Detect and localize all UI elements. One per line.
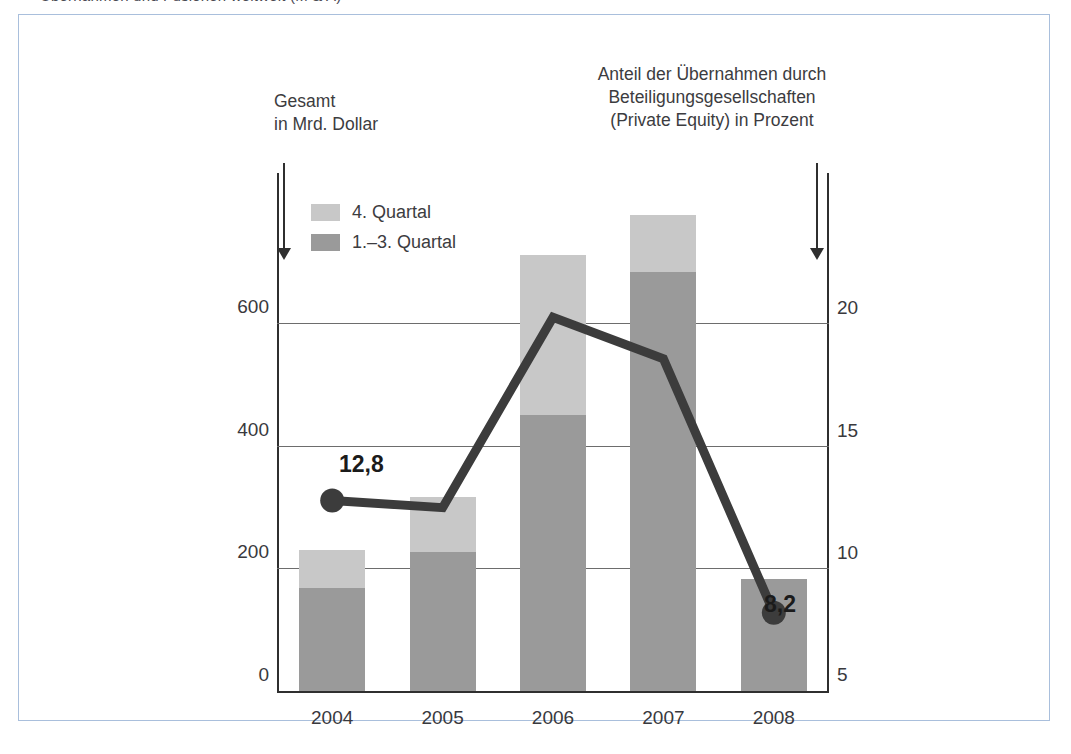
left-axis-annotation: Gesamt in Mrd. Dollar — [274, 90, 378, 136]
year-label-2004: 2004 — [299, 707, 365, 729]
year-label-2007: 2007 — [630, 707, 696, 729]
left-tick-600: 600 — [237, 296, 269, 318]
private-equity-markers — [320, 488, 786, 624]
right-annotation-line-1: Anteil der Übernahmen durch — [552, 63, 872, 86]
right-axis-annotation: Anteil der Übernahmen durch Beteiligungs… — [552, 63, 872, 132]
right-tick-20: 20 — [837, 297, 858, 319]
right-tick-10: 10 — [837, 542, 858, 564]
right-annotation-line-2: Beteiligungsgesellschaften — [552, 86, 872, 109]
year-label-2006: 2006 — [520, 707, 586, 729]
line-marker-2004 — [320, 488, 344, 512]
left-annotation-line-1: Gesamt — [274, 90, 378, 113]
top-caption-text: Übernahmen und Fusionen weltweit (M & A) — [40, 0, 341, 4]
right-tick-5: 5 — [837, 664, 848, 686]
private-equity-line-series — [277, 173, 829, 693]
left-tick-400: 400 — [237, 419, 269, 441]
left-tick-0: 0 — [258, 664, 269, 686]
chart-panel: Gesamt in Mrd. Dollar Anteil der Übernah… — [18, 14, 1050, 721]
plot-area: 0200400600 5101520 20042005200620072008 … — [277, 173, 829, 693]
right-annotation-line-3: (Private Equity) in Prozent — [552, 109, 872, 132]
left-annotation-line-2: in Mrd. Dollar — [274, 113, 378, 136]
value-label-2004: 12,8 — [339, 451, 384, 478]
private-equity-polyline — [332, 317, 774, 613]
year-label-2005: 2005 — [410, 707, 476, 729]
right-tick-15: 15 — [837, 420, 858, 442]
value-label-2008: 8,2 — [764, 591, 796, 618]
cropped-top-caption-strip: Übernahmen und Fusionen weltweit (M & A) — [0, 0, 1071, 14]
left-tick-200: 200 — [237, 541, 269, 563]
year-label-2008: 2008 — [741, 707, 807, 729]
